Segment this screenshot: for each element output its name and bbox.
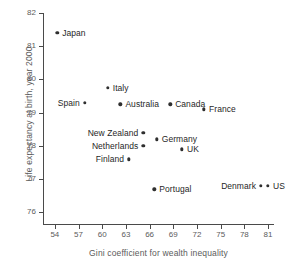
x-tick-label: 78 [232,230,256,239]
data-point-label-france: France [209,104,236,114]
data-point-label-netherlands: Netherlands [92,141,138,151]
y-tick-label: 82 [14,8,36,17]
x-tick-label: 72 [185,230,209,239]
x-tick-label: 81 [256,230,280,239]
y-tick-mark [39,146,43,147]
y-tick-label: 76 [14,207,36,216]
scatter-chart: 76777879808182 54576063666972757881 Japa… [0,0,306,267]
data-point-label-uk: UK [187,144,199,154]
x-axis-title: Gini coefficient for wealth inequality [43,248,274,258]
y-tick-mark [39,113,43,114]
x-tick-mark [102,225,103,229]
data-point-label-portugal: Portugal [159,184,191,194]
x-tick-label: 66 [138,230,162,239]
y-tick-mark [39,79,43,80]
x-tick-label: 75 [209,230,233,239]
data-point-label-spain: Spain [58,98,80,108]
data-point-label-japan: Japan [62,28,85,38]
data-point-australia[interactable] [119,103,122,106]
data-point-france[interactable] [202,108,205,111]
data-point-label-finland: Finland [96,154,124,164]
data-point-new-zealand[interactable] [142,131,145,134]
plot-area: 76777879808182 54576063666972757881 Japa… [0,0,306,267]
x-tick-mark [55,225,56,229]
data-point-uk[interactable] [180,148,183,151]
x-tick-mark [79,225,80,229]
data-point-germany[interactable] [155,138,158,141]
data-point-italy[interactable] [106,86,109,89]
x-tick-mark [244,225,245,229]
x-tick-label: 63 [114,230,138,239]
data-point-canada[interactable] [168,103,171,106]
data-point-label-italy: Italy [113,83,129,93]
data-point-us[interactable] [266,184,269,187]
data-point-label-new-zealand: New Zealand [88,128,139,138]
x-tick-mark [268,225,269,229]
data-point-label-denmark: Denmark [221,181,256,191]
y-axis-line [43,13,44,224]
x-tick-mark [126,225,127,229]
x-tick-label: 54 [43,230,67,239]
data-point-denmark[interactable] [259,184,262,187]
x-tick-mark [197,225,198,229]
data-point-label-canada: Canada [175,99,205,109]
data-point-netherlands[interactable] [142,144,145,147]
x-tick-label: 69 [161,230,185,239]
y-tick-mark [39,46,43,47]
data-point-portugal[interactable] [153,187,156,190]
y-tick-mark [39,179,43,180]
data-point-label-us: US [273,181,285,191]
data-point-finland[interactable] [127,158,130,161]
y-axis-title: Life expectancy at birth, year 2000 [24,29,34,199]
x-tick-mark [221,225,222,229]
y-tick-mark [39,13,43,14]
x-tick-mark [150,225,151,229]
data-point-label-germany: Germany [162,134,197,144]
y-tick-mark [39,212,43,213]
x-tick-mark [173,225,174,229]
x-tick-label: 57 [67,230,91,239]
data-point-japan[interactable] [56,31,59,34]
data-point-label-australia: Australia [125,99,159,109]
x-tick-label: 60 [90,230,114,239]
data-point-spain[interactable] [83,101,86,104]
